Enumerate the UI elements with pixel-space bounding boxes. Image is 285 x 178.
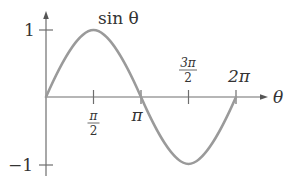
sine-chart: sin θ θ 1 −1 π 2 π 3π 2 2π — [0, 0, 285, 178]
x-axis-arrow-icon — [260, 94, 268, 100]
three-pi-half-denominator: 2 — [184, 71, 192, 85]
x-label-pi: π — [130, 105, 143, 125]
y-label-1: 1 — [24, 20, 35, 40]
x-axis-label: θ — [273, 87, 283, 107]
x-label-three-pi-half: 3π 2 — [179, 56, 197, 85]
x-label-pi-half: π 2 — [88, 109, 100, 138]
x-label-two-pi: 2π — [227, 66, 251, 86]
y-axis-arrow-icon — [43, 11, 49, 19]
pi-half-denominator: 2 — [90, 124, 98, 138]
y-label-neg1: −1 — [8, 155, 33, 175]
pi-half-numerator: π — [89, 109, 99, 123]
three-pi-half-numerator: 3π — [180, 56, 197, 70]
axes — [43, 11, 268, 176]
curve-label: sin θ — [98, 8, 139, 28]
